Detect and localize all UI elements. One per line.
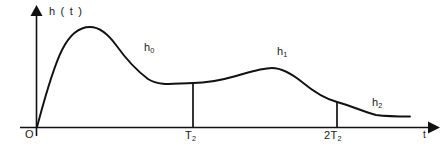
y-axis-label: h ( t ) [49, 6, 83, 17]
curve-label-h0: h0 [144, 42, 154, 53]
curve-label-h2: h2 [372, 97, 382, 108]
x-tick-label-t2-main: T [185, 129, 192, 141]
y-axis-arrow-icon [31, 5, 43, 16]
x-axis-arrow-icon [428, 122, 440, 134]
curve-label-h2-sub: 2 [378, 101, 382, 110]
curve-label-h1-sub: 1 [283, 50, 287, 59]
x-tick-label-2t2-main: 2T [324, 129, 337, 141]
x-tick-label-t2-sub: 2 [192, 134, 196, 143]
x-tick-label-t2: T2 [185, 130, 196, 141]
plot-area [0, 0, 445, 159]
origin-label: O [25, 129, 34, 140]
response-curve [37, 27, 410, 127]
x-tick-label-2t2: 2T2 [324, 130, 341, 141]
impulse-response-figure: h ( t ) O t T2 2T2 h0 h1 h2 [0, 0, 445, 159]
curve-label-h0-sub: 0 [150, 46, 154, 55]
curve-label-h1: h1 [277, 46, 287, 57]
x-tick-label-2t2-sub: 2 [337, 134, 341, 143]
x-axis-label: t [423, 130, 426, 140]
